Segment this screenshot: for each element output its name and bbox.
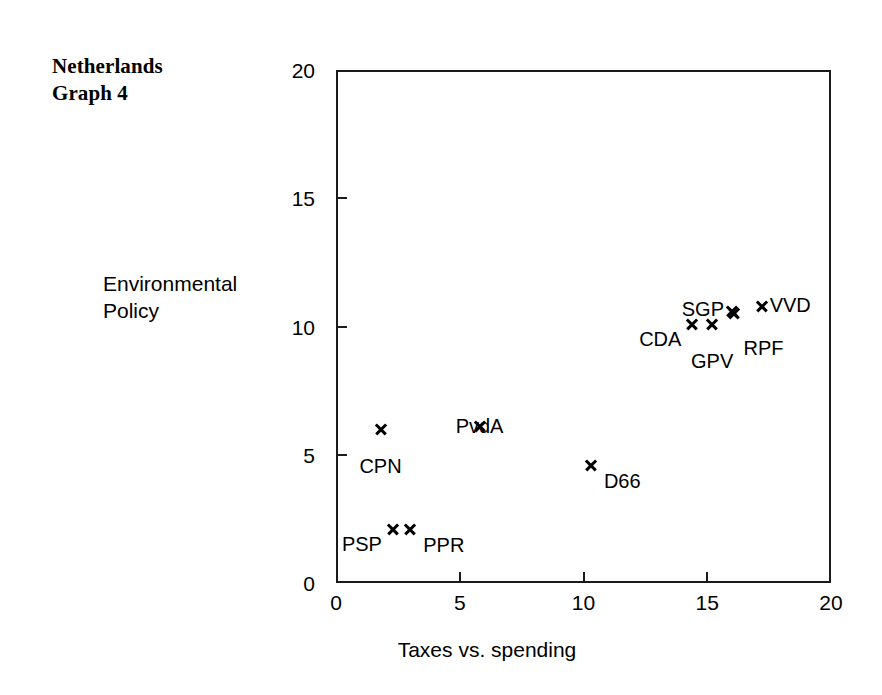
x-tick-label-0: 0 — [330, 592, 342, 613]
x-tick-label-5: 5 — [454, 592, 466, 613]
x-axis-title: Taxes vs. spending — [398, 638, 577, 661]
x-axis-title-wrap: Taxes vs. spending — [0, 638, 882, 662]
y-tick-label-10: 10 — [255, 316, 315, 337]
x-tick-5 — [459, 572, 461, 583]
data-label-cda: CDA — [639, 329, 681, 349]
plot-frame — [336, 70, 831, 583]
x-tick-label-15: 15 — [696, 592, 719, 613]
data-label-ppr: PPR — [423, 535, 464, 555]
y-axis-title: Environmental Policy — [103, 270, 237, 324]
plot-area: PSPPPRCPNPvdAD66CDAGPVSGPRPFVVD — [336, 70, 831, 583]
x-tick-label-20: 20 — [819, 592, 842, 613]
y-tick-label-15: 15 — [255, 188, 315, 209]
data-label-sgp: SGP — [682, 299, 724, 319]
y-tick-label-5: 5 — [255, 444, 315, 465]
y-tick-label-0: 0 — [255, 573, 315, 594]
figure-title: Netherlands Graph 4 — [52, 53, 163, 107]
y-tick-10 — [336, 326, 347, 328]
y-tick-5 — [336, 454, 347, 456]
data-label-pvda: PvdA — [456, 416, 504, 436]
data-label-psp: PSP — [342, 534, 382, 554]
data-label-vvd: VVD — [770, 295, 811, 315]
x-tick-15 — [706, 572, 708, 583]
data-label-d66: D66 — [604, 471, 641, 491]
scatter-plot-figure: Netherlands Graph 4 Environmental Policy… — [0, 0, 882, 695]
data-label-gpv: GPV — [691, 351, 733, 371]
data-label-rpf: RPF — [743, 338, 783, 358]
y-tick-label-20: 20 — [255, 60, 315, 81]
x-tick-label-10: 10 — [572, 592, 595, 613]
y-tick-15 — [336, 197, 347, 199]
data-label-cpn: CPN — [359, 456, 401, 476]
x-tick-10 — [583, 572, 585, 583]
